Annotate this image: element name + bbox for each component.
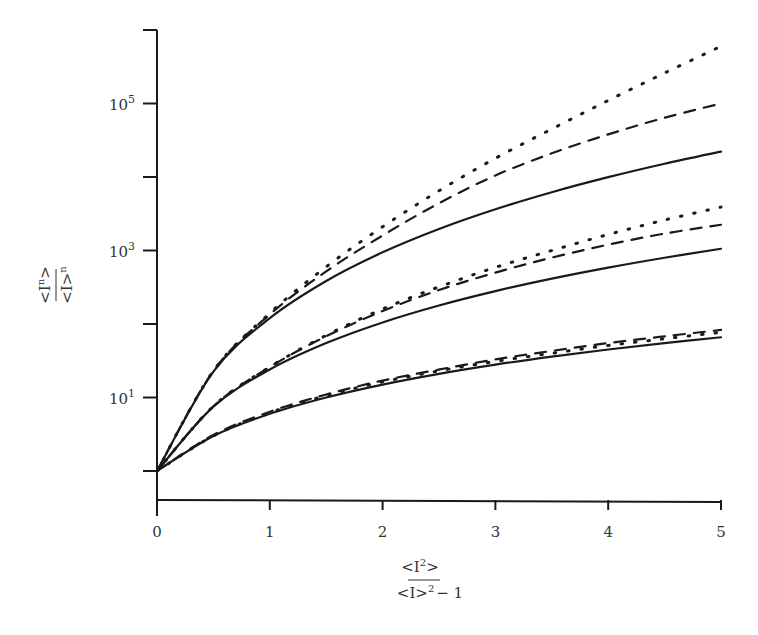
svg-text:<I>2− 1: <I>2− 1 [397, 583, 463, 602]
y-tick-label: 103 [109, 240, 135, 261]
series-line-solid [157, 249, 721, 471]
x-tick-label: 1 [265, 523, 275, 541]
x-tick-label: 5 [716, 523, 726, 541]
x-tick-label: 0 [152, 523, 162, 541]
plot-lines [157, 46, 721, 471]
chart: 101103105 012345 <I2> <I>2− 1 <In> <I>n [0, 0, 758, 635]
svg-text:<In>: <In> [35, 266, 54, 304]
svg-text:<I2>: <I2> [401, 557, 438, 576]
series-line-dashed [157, 330, 721, 471]
x-axis: 012345 [152, 500, 726, 541]
svg-text:<I>n: <I>n [57, 266, 76, 304]
x-tick-label: 2 [378, 523, 388, 541]
series-line-dotted [157, 46, 721, 471]
series-line-solid [157, 337, 721, 471]
x-axis-line [157, 500, 721, 502]
series-line-dotted [157, 332, 721, 471]
x-label-denominator: <I> [397, 584, 428, 602]
x-label-numerator: <I [401, 558, 420, 576]
y-tick-label: 105 [109, 93, 135, 114]
x-axis-label: <I2> <I>2− 1 [397, 557, 463, 602]
y-tick-label: 101 [109, 387, 135, 408]
series-line-dashed [157, 104, 721, 472]
y-axis-label: <In> <I>n [35, 266, 76, 304]
y-label-numerator: <I [36, 285, 54, 304]
y-axis: 101103105 [109, 30, 157, 516]
x-tick-label: 4 [603, 523, 613, 541]
y-label-denominator: <I> [58, 273, 76, 304]
x-tick-label: 3 [491, 523, 501, 541]
